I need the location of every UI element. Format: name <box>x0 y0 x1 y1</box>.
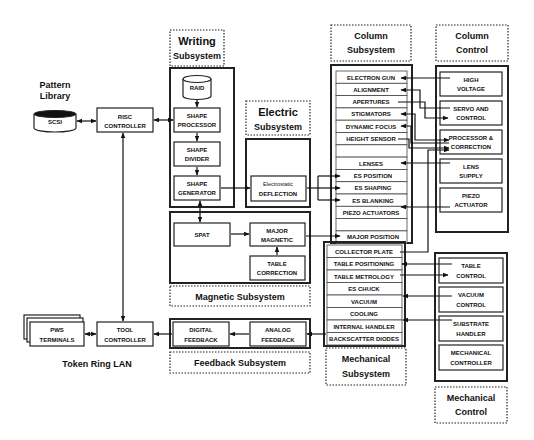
mechanical-label-1: Mechanical <box>342 354 391 364</box>
piezo-actuator-label-2: ACTUATOR <box>454 202 488 208</box>
pattern-library-label-2: Library <box>40 91 71 101</box>
mech-item-backscatter-diodes: BACKSCATTER DIODES <box>329 336 399 342</box>
major-magnetic-label-2: MAGNETIC <box>261 237 294 243</box>
feedback-label: Feedback Subsystem <box>194 358 286 368</box>
column-item-lenses: LENSES <box>359 161 383 167</box>
scsi-disk-icon: SCSI <box>34 111 76 133</box>
electric-label-2: Subsystem <box>254 122 302 132</box>
shape-processor-label-2: PROCESSOR <box>178 122 217 128</box>
substrate-handler-label-2: HANDLER <box>456 331 486 337</box>
shape-generator-label-1: SHAPE <box>187 181 208 187</box>
column-item-major-position: MAJOR POSITION <box>347 234 399 240</box>
shape-generator-box: SHAPE GENERATOR <box>174 176 220 200</box>
deflection-label-2: DEFLECTION <box>259 191 297 197</box>
analog-feedback-label-2: FEEDBACK <box>261 337 295 343</box>
servo-label-1: SERVO AND <box>453 106 489 112</box>
high-voltage-box: HIGH VOLTAGE <box>440 72 502 96</box>
shape-divider-box: SHAPE DIVIDER <box>174 142 220 166</box>
table-control-label-2: CONTROL <box>456 273 486 279</box>
table-correction-box: TABLE CORRECTION <box>250 256 305 280</box>
writing-label-1: Writing <box>178 35 216 47</box>
mech-item-cooling: COOLING <box>350 311 378 317</box>
column-control-label: Column Control <box>436 25 508 61</box>
servo-control-box: SERVO AND CONTROL <box>440 101 502 125</box>
mechanical-items-list: COLLECTOR PLATE TABLE POSITIONING TABLE … <box>327 245 402 345</box>
high-voltage-label-2: VOLTAGE <box>457 86 485 92</box>
mech-control-label-2: Control <box>455 407 487 417</box>
risc-controller-label-2: CONTROLLER <box>104 123 146 129</box>
shape-generator-label-2: GENERATOR <box>178 190 216 196</box>
processor-correction-box: PROCESSOR & CORRECTION <box>440 130 502 154</box>
writing-label-2: Subsystem <box>173 51 221 61</box>
shape-divider-label-2: DIVIDER <box>185 156 210 162</box>
mech-item-es-chuck: ES CHUCK <box>348 286 380 292</box>
column-item-dynamic-focus: DYNAMIC FOCUS <box>346 124 397 130</box>
column-item-apertures: APERTURES <box>352 99 389 105</box>
electric-label-1: Electric <box>258 106 298 118</box>
mechanical-controller-label-2: CONTROLLER <box>450 360 492 366</box>
servo-label-2: CONTROL <box>456 115 486 121</box>
shape-divider-label-1: SHAPE <box>187 147 208 153</box>
mech-control-label-1: Mechanical <box>447 393 496 403</box>
piezo-actuator-label-1: PIEZO <box>462 193 480 199</box>
analog-feedback-box: ANALOG FEEDBACK <box>250 322 306 346</box>
scsi-label: SCSI <box>48 119 62 125</box>
system-diagram: Pattern Library SCSI RISC CONTROLLER TOO… <box>0 0 534 440</box>
digital-feedback-label-1: DIGITAL <box>189 327 213 333</box>
electrostatic-deflection-box: Electrostatic DEFLECTION <box>251 176 306 201</box>
mechanical-control-label: Mechanical Control <box>435 387 507 423</box>
processor-correction-label-2: CORRECTION <box>451 144 491 150</box>
token-ring-label: Token Ring LAN <box>62 359 131 369</box>
vacuum-control-box: VACUUM CONTROL <box>439 287 503 312</box>
column-label-1: Column <box>354 31 388 41</box>
mech-item-table-metrology: TABLE METROLOGY <box>334 274 394 280</box>
mechanical-subsystem-label: Mechanical Subsystem <box>326 348 406 385</box>
tool-controller-label-2: CONTROLLER <box>104 337 146 343</box>
lens-supply-label-1: LENS <box>463 164 479 170</box>
table-correction-label-1: TABLE <box>267 261 287 267</box>
pws-terminals-label-2: TERMINALS <box>40 337 75 343</box>
piezo-actuator-box: PIEZO ACTUATOR <box>440 188 502 212</box>
tool-controller-label-1: TOOL <box>117 327 134 333</box>
digital-feedback-box: DIGITAL FEEDBACK <box>173 322 229 346</box>
mech-item-collector-plate: COLLECTOR PLATE <box>335 249 393 255</box>
table-control-label-1: TABLE <box>461 263 481 269</box>
pws-terminals-label-1: PWS <box>50 327 64 333</box>
processor-correction-label-1: PROCESSOR & <box>449 135 494 141</box>
table-control-box: TABLE CONTROL <box>439 258 503 283</box>
magnetic-label: Magnetic Subsystem <box>195 292 285 302</box>
mechanical-controller-box: MECHANICAL CONTROLLER <box>439 345 503 370</box>
major-magnetic-box: MAJOR MAGNETIC <box>250 223 305 246</box>
writing-subsystem-label: Writing Subsystem <box>170 30 224 66</box>
mech-item-table-positioning: TABLE POSITIONING <box>334 261 395 267</box>
column-control-label-2: Control <box>456 45 488 55</box>
table-correction-label-2: CORRECTION <box>257 270 297 276</box>
vacuum-control-label-1: VACUUM <box>458 292 484 298</box>
column-item-height-sensor: HEIGHT SENSOR <box>346 136 396 142</box>
major-magnetic-label-1: MAJOR <box>266 228 288 234</box>
column-item-es-blanking: ES BLANKING <box>352 198 394 204</box>
mech-item-vacuum: VACUUM <box>351 299 377 305</box>
mech-item-internal-handler: INTERNAL HANDLER <box>333 324 395 330</box>
mechanical-label-2: Subsystem <box>342 369 390 379</box>
analog-feedback-label-1: ANALOG <box>265 327 291 333</box>
lens-supply-label-2: SUPPLY <box>459 173 482 179</box>
raid-disk-icon: RAID <box>183 76 211 100</box>
column-item-piezo-actuators: PIEZO ACTUATORS <box>343 210 400 216</box>
raid-label: RAID <box>190 85 205 91</box>
vacuum-control-label-2: CONTROL <box>456 302 486 308</box>
risc-controller-label-1: RISC <box>118 114 133 120</box>
column-item-stigmators: STIGMATORS <box>351 111 390 117</box>
column-label-2: Subsystem <box>347 45 395 55</box>
column-control-label-1: Column <box>455 31 489 41</box>
column-item-alignment: ALIGNMENT <box>353 87 389 93</box>
column-subsystem-label: Column Subsystem <box>331 25 411 61</box>
electric-subsystem-label: Electric Subsystem <box>246 101 310 135</box>
spat-label: SPAT <box>194 232 209 238</box>
risc-controller-box: RISC CONTROLLER <box>97 108 153 132</box>
column-item-es-position: ES POSITION <box>354 173 392 179</box>
deflection-label-1: Electrostatic <box>263 181 293 187</box>
spat-box: SPAT <box>174 223 230 246</box>
pws-terminals-stack: PWS TERMINALS <box>24 315 84 346</box>
pattern-library-label-1: Pattern <box>39 80 70 90</box>
